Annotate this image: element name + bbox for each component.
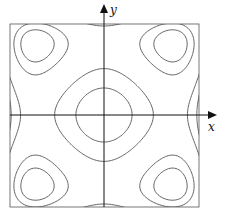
level-curve [8,22,202,210]
y-axis-arrow-icon [100,4,108,13]
x-axis-label: x [208,120,215,134]
level-curves [8,22,202,210]
y-axis-label: y [109,3,117,17]
x-axis-arrow-icon [208,111,217,119]
contour-plot: x y [0,0,225,215]
